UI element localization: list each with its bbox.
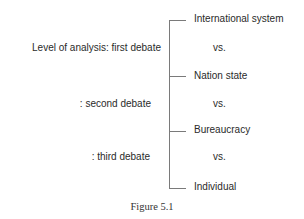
left-label-first-debate: Level of analysis: first debate: [32, 42, 161, 54]
bracket-tick: [169, 131, 186, 132]
bracket-tick: [169, 76, 186, 77]
vs-label: vs.: [213, 98, 226, 110]
bracket-tick: [169, 20, 186, 21]
bracket-vertical-line: [169, 20, 170, 189]
left-label-second-debate: : second debate: [80, 98, 151, 110]
item-international-system: International system: [194, 13, 284, 25]
item-bureaucracy: Bureaucracy: [194, 124, 250, 136]
item-individual: Individual: [194, 181, 236, 193]
vs-label: vs.: [213, 42, 226, 54]
bracket-tick: [169, 188, 186, 189]
figure-caption: Figure 5.1: [0, 201, 304, 212]
left-label-third-debate: : third debate: [92, 151, 150, 163]
vs-label: vs.: [213, 151, 226, 163]
item-nation-state: Nation state: [194, 70, 247, 82]
